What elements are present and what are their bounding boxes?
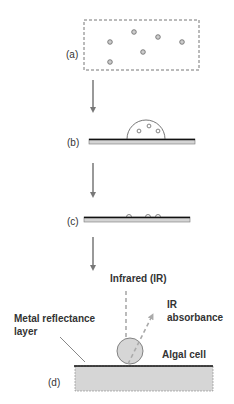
cell bbox=[108, 60, 113, 65]
metal-layer-label-2: layer bbox=[14, 326, 37, 337]
cell bbox=[156, 129, 160, 133]
dried-cell bbox=[146, 215, 151, 218]
step-b-label: (b) bbox=[67, 137, 79, 148]
cell bbox=[132, 30, 137, 35]
step-d-label: (d) bbox=[48, 377, 60, 388]
process-diagram: (a) (b) (c) bbox=[0, 0, 234, 404]
cell bbox=[180, 40, 185, 45]
step-c: (c) bbox=[67, 215, 190, 228]
cell bbox=[147, 124, 151, 128]
step-c-label: (c) bbox=[67, 216, 79, 227]
infrared-label: Infrared (IR) bbox=[110, 273, 167, 284]
ir-absorbance-label-1: IR bbox=[167, 299, 178, 310]
step-a: (a) bbox=[66, 20, 199, 70]
cell bbox=[141, 50, 146, 55]
ir-absorbance-label-2: absorbance bbox=[167, 312, 224, 323]
cell bbox=[108, 40, 113, 45]
cell bbox=[156, 35, 161, 40]
container-dashed bbox=[84, 20, 199, 70]
dried-cell bbox=[156, 215, 161, 218]
substrate bbox=[75, 366, 213, 391]
cells-suspended bbox=[108, 30, 185, 65]
step-a-label: (a) bbox=[66, 49, 78, 60]
metal-layer-label-1: Metal reflectance bbox=[14, 313, 96, 324]
cell bbox=[137, 129, 141, 133]
step-b: (b) bbox=[67, 120, 195, 148]
dried-cell bbox=[127, 215, 132, 218]
step-d: Infrared (IR) IR absorbance Metal reflec… bbox=[14, 273, 224, 391]
leader-line bbox=[60, 337, 85, 362]
algal-cell-label: Algal cell bbox=[162, 349, 206, 360]
